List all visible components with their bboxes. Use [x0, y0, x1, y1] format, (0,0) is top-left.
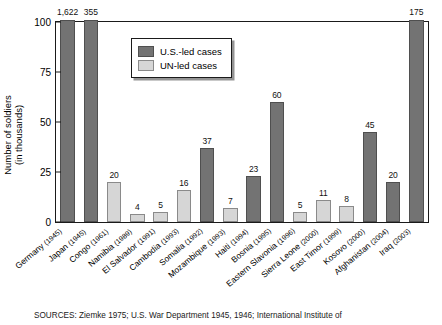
- bar-kosovo: [363, 132, 377, 222]
- legend-swatch-us-led-icon: [138, 46, 154, 57]
- bar-group: 23: [246, 22, 260, 222]
- bar-group: 20: [386, 22, 400, 222]
- y-tick-mark: [56, 122, 61, 123]
- bars-layer: 1,622355204516377236051184520175: [56, 22, 428, 222]
- bar-value-label: 5: [298, 200, 303, 210]
- y-tick-label: 100: [34, 17, 51, 28]
- y-tick-mark: [56, 72, 61, 73]
- y-tick-label: 50: [40, 117, 51, 128]
- bar-group: 45: [363, 22, 377, 222]
- legend-label-us-led: U.S.-led cases: [160, 46, 222, 57]
- bar-group: 8: [339, 22, 353, 222]
- y-tick-label: 0: [45, 217, 51, 228]
- bar-value-label: 20: [388, 170, 397, 180]
- y-axis-title: Number of soldiers (in thousands): [0, 40, 26, 230]
- y-axis-title-line1: Number of soldiers: [2, 95, 13, 175]
- y-tick-mark: [56, 172, 61, 173]
- bar-bosnia: [270, 102, 284, 222]
- plot-area: 1,622355204516377236051184520175 0255075…: [55, 21, 429, 223]
- chart-legend: U.S.-led cases UN-led cases: [131, 38, 232, 78]
- bar-value-label: 16: [179, 178, 188, 188]
- bar-sierra-leone: [316, 200, 330, 222]
- bar-value-label: 8: [344, 194, 349, 204]
- x-axis-labels: Germany (1945)Japan (1945)Congo (1961)Na…: [55, 224, 429, 302]
- source-note: SOURCES: Ziemke 1975; U.S. War Departmen…: [34, 311, 442, 321]
- y-tick-label: 75: [40, 67, 51, 78]
- bar-value-label: 23: [249, 164, 258, 174]
- bar-japan: [84, 20, 98, 222]
- bar-group: 1,622: [60, 22, 74, 222]
- legend-label-un-led: UN-led cases: [160, 60, 217, 71]
- legend-swatch-un-led-icon: [138, 60, 154, 71]
- bar-value-label: 1,622: [57, 7, 78, 17]
- bar-congo: [107, 182, 121, 222]
- bar-namibia: [130, 214, 144, 222]
- bar-value-label: 37: [202, 136, 211, 146]
- bar-group: 60: [270, 22, 284, 222]
- bar-mozambique: [223, 208, 237, 222]
- bar-value-label: 45: [365, 120, 374, 130]
- bar-group: 20: [107, 22, 121, 222]
- bar-iraq: [409, 20, 423, 222]
- bar-value-label: 20: [109, 170, 118, 180]
- legend-item-us-led: U.S.-led cases: [138, 44, 222, 58]
- bar-group: 11: [316, 22, 330, 222]
- x-label-year: (2003): [391, 227, 413, 247]
- bar-el-salvador: [153, 212, 167, 222]
- x-label-country: Germany: [13, 240, 48, 271]
- bar-group: 175: [409, 22, 423, 222]
- bar-somalia: [200, 148, 214, 222]
- bar-value-label: 11: [319, 188, 328, 198]
- y-tick-label: 25: [40, 167, 51, 178]
- bar-value-label: 7: [228, 196, 233, 206]
- y-tick-mark: [56, 22, 61, 23]
- bar-value-label: 60: [272, 90, 281, 100]
- bar-value-label: 5: [158, 200, 163, 210]
- bar-afghanistan: [386, 182, 400, 222]
- bar-east-timor: [339, 206, 353, 222]
- bar-chart-figure: Number of soldiers (in thousands) 1,6223…: [0, 0, 442, 325]
- bar-haiti: [246, 176, 260, 222]
- legend-item-un-led: UN-led cases: [138, 58, 222, 72]
- bar-germany: [60, 20, 74, 222]
- bar-value-label: 4: [135, 202, 140, 212]
- bar-group: 5: [293, 22, 307, 222]
- bar-eastern-slavonia: [293, 212, 307, 222]
- bar-group: 355: [84, 22, 98, 222]
- bar-value-label: 355: [84, 7, 98, 17]
- y-axis-title-line2: (in thousands): [13, 95, 24, 175]
- bar-value-label: 175: [409, 7, 423, 17]
- bar-cambodia: [177, 190, 191, 222]
- y-tick-mark: [56, 222, 61, 223]
